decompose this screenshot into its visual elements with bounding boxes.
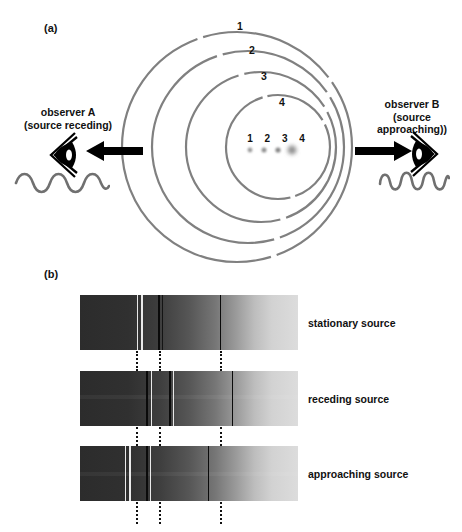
spectral-line [232, 371, 233, 426]
observer-b-caption-line-1: observer B [366, 98, 458, 111]
source-pulse-label-1: 1 [244, 133, 256, 144]
spectrum-strip-approaching [80, 446, 298, 501]
source-pulse-dot-3 [275, 147, 280, 152]
panel-b-label: (b) [44, 268, 58, 280]
spectral-line [137, 295, 139, 350]
wavefront-ring-3 [186, 72, 336, 222]
spectral-line [151, 371, 153, 426]
wavefront-ring-4 [226, 95, 330, 199]
arrow-right-icon [355, 140, 413, 162]
source-pulse-label-2: 2 [261, 133, 273, 144]
spectrum-caption-approaching: approaching source [308, 468, 408, 480]
guide-line [159, 502, 161, 524]
guide-line [220, 427, 222, 446]
doppler-effect-figure: (a) 1 2 3 4 1 2 3 4 observer [0, 0, 462, 532]
observer-a-caption: observer A (source receding) [12, 106, 124, 131]
source-pulse-dot-1 [248, 148, 253, 153]
spectral-line [129, 446, 131, 501]
wavefront-ring-label-1: 1 [234, 20, 246, 32]
spectrum-caption-stationary: stationary source [308, 317, 396, 329]
guide-line [136, 427, 138, 446]
wavefront-ring-1 [122, 32, 352, 262]
observer-a-caption-line-1: observer A [12, 106, 124, 119]
wave-observer-b-blueshifted [378, 166, 450, 192]
wavefront-ring-label-2: 2 [246, 44, 258, 56]
spectral-line [146, 446, 147, 501]
spectral-line [158, 295, 159, 350]
wavefront-ring-label-3: 3 [258, 70, 270, 82]
guide-line [136, 502, 138, 524]
spectral-line [125, 446, 127, 501]
spectral-line [150, 446, 152, 501]
spectral-line [146, 371, 147, 426]
guide-line [220, 351, 222, 371]
guide-line [159, 427, 161, 446]
source-pulse-dot-4 [288, 146, 297, 155]
guide-line [220, 502, 222, 524]
spectral-line [208, 446, 209, 501]
spectrum-strip-receding [80, 371, 298, 426]
observer-a-caption-line-2: (source receding) [12, 119, 124, 132]
guide-line [136, 351, 138, 371]
spectral-line [169, 371, 170, 426]
wave-observer-a-redshifted [14, 168, 110, 194]
spectrum-caption-receding: receding source [308, 393, 389, 405]
spectrum-strip-stationary [80, 295, 298, 350]
source-pulse-label-3: 3 [279, 133, 291, 144]
spectral-line [173, 371, 175, 426]
spectral-line [162, 295, 163, 350]
wavefront-ring-label-4: 4 [276, 96, 288, 108]
observer-b-caption-line-2: (source [366, 111, 458, 124]
spectral-line [141, 295, 143, 350]
arrow-left-icon [85, 140, 143, 162]
guide-line [159, 351, 161, 371]
spectral-line [220, 295, 221, 350]
source-pulse-dot-2 [262, 148, 267, 153]
source-pulse-label-row: 1 2 3 4 [244, 133, 308, 144]
source-pulse-label-4: 4 [296, 133, 308, 144]
wavefront-ring-2 [152, 51, 344, 243]
